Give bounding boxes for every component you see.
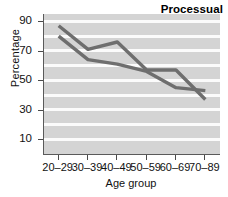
y-axis-tick-mark bbox=[38, 110, 43, 111]
x-axis-tick-label: 40–49 bbox=[101, 162, 132, 173]
x-axis-tick-mark bbox=[116, 155, 117, 160]
x-axis-tick-labels: 20–2930–3940–4950–5960–6970–89 bbox=[0, 162, 228, 176]
y-axis-tick-label: 30 bbox=[19, 104, 32, 116]
x-axis-tick-mark bbox=[58, 155, 59, 160]
x-axis-tick-label: 70–89 bbox=[189, 162, 220, 173]
series-lines bbox=[44, 14, 220, 154]
y-axis-tick-mark bbox=[38, 139, 43, 140]
x-axis-tick-mark bbox=[175, 155, 176, 160]
y-axis-tick-label: 90 bbox=[19, 15, 32, 27]
y-axis-tick-mark bbox=[38, 80, 43, 81]
x-axis-tick-label: 60–69 bbox=[160, 162, 191, 173]
x-axis-tick-label: 50–59 bbox=[130, 162, 161, 173]
x-axis-tick-label: 30–39 bbox=[72, 162, 103, 173]
plot-area bbox=[43, 14, 220, 155]
x-axis-tick-label: 20–29 bbox=[42, 162, 73, 173]
x-axis-tick-mark bbox=[146, 155, 147, 160]
y-axis-tick-label: 50 bbox=[19, 74, 32, 86]
y-axis-tick-label: 70 bbox=[19, 45, 32, 57]
x-axis-tick-mark bbox=[87, 155, 88, 160]
x-axis-tick-mark bbox=[204, 155, 205, 160]
x-axis-title: Age group bbox=[43, 177, 219, 189]
y-axis-tick-mark bbox=[38, 21, 43, 22]
y-axis-tick-mark bbox=[38, 51, 43, 52]
chart-container: Percentage 9070503010 Processual 20–2930… bbox=[0, 0, 228, 197]
chart-title: Processual bbox=[159, 2, 225, 16]
y-axis-tick-label: 10 bbox=[19, 133, 32, 145]
